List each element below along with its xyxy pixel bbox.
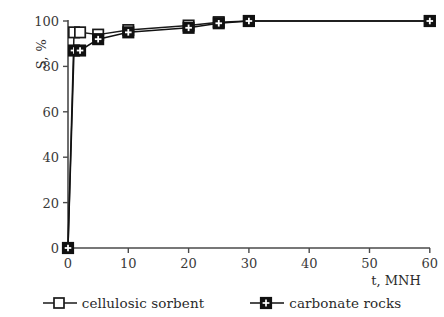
chart-figure: S, % 0 20 40 60 80 100 (0, 0, 444, 317)
x-tick-label-30: 30 (241, 256, 258, 271)
data-series-layer (63, 16, 435, 253)
open-square-icon (43, 296, 77, 310)
x-tick-label-60: 60 (422, 256, 439, 271)
data-point[interactable] (214, 18, 224, 28)
data-point[interactable] (75, 27, 85, 37)
filled-square-plus-icon (250, 296, 284, 310)
y-tick-label-100: 100 (34, 14, 59, 29)
y-tick-label-60: 60 (42, 105, 59, 120)
legend-entry-cellulosic-sorbent[interactable]: cellulosic sorbent (43, 295, 204, 311)
data-point[interactable] (63, 243, 73, 253)
series-line-1 (68, 21, 430, 248)
series-line-0 (68, 21, 430, 248)
x-tick-label-50: 50 (361, 256, 378, 271)
x-tick-label-40: 40 (301, 256, 318, 271)
x-axis-title: t, MNH (371, 273, 421, 288)
chart-legend: cellulosic sorbent carbonate rocks (0, 288, 444, 317)
x-tick-label-0: 0 (64, 256, 72, 271)
data-point[interactable] (425, 16, 435, 26)
data-point[interactable] (244, 16, 254, 26)
data-point[interactable] (75, 45, 85, 55)
y-tick-label-40: 40 (42, 150, 59, 165)
legend-label-carbonate-rocks: carbonate rocks (289, 295, 401, 311)
x-tick-label-10: 10 (120, 256, 137, 271)
y-tick-label-0: 0 (51, 241, 59, 256)
y-tick-label-80: 80 (42, 59, 59, 74)
data-point[interactable] (93, 34, 103, 44)
legend-label-cellulosic-sorbent: cellulosic sorbent (82, 295, 204, 311)
data-point[interactable] (183, 23, 193, 33)
plot-area: 0 20 40 60 80 100 0 10 20 30 40 50 60 t,… (0, 0, 444, 317)
x-tick-label-20: 20 (180, 256, 197, 271)
data-point[interactable] (123, 27, 133, 37)
legend-entry-carbonate-rocks[interactable]: carbonate rocks (250, 295, 401, 311)
y-tick-label-20: 20 (42, 196, 59, 211)
